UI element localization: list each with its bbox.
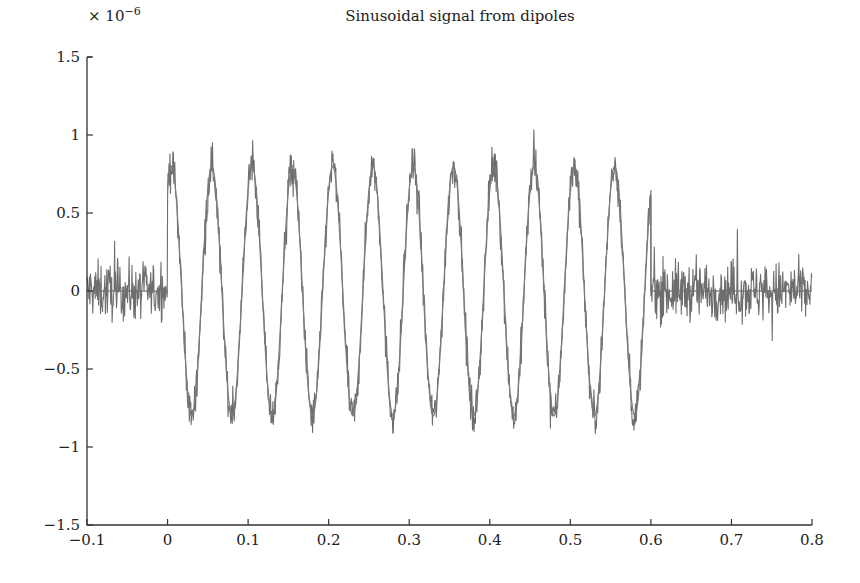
chart: Sinusoidal signal from dipoles × 10−6 −0… bbox=[0, 0, 860, 583]
x-tick-label: 0.3 bbox=[397, 531, 421, 549]
y-axis-ticks: −1.5−1−0.500.511.5 bbox=[44, 48, 93, 534]
x-tick-label: 0.5 bbox=[558, 531, 582, 549]
y-multiplier-exp: −6 bbox=[124, 5, 140, 18]
chart-title: Sinusoidal signal from dipoles bbox=[345, 7, 574, 25]
x-tick-label: 0.8 bbox=[800, 531, 824, 549]
x-tick-label: 0 bbox=[163, 531, 173, 549]
x-tick-label: 0.7 bbox=[720, 531, 744, 549]
y-tick-label: −1.5 bbox=[44, 516, 80, 534]
x-tick-label: 0.1 bbox=[236, 531, 260, 549]
x-tick-label: 0.6 bbox=[639, 531, 663, 549]
svg-text:× 10−6: × 10−6 bbox=[88, 5, 141, 25]
y-multiplier-base: × 10 bbox=[88, 7, 124, 25]
x-axis-ticks: −0.100.10.20.30.40.50.60.70.8 bbox=[69, 519, 824, 549]
y-tick-label: 1 bbox=[70, 126, 80, 144]
y-multiplier: × 10−6 bbox=[88, 5, 141, 25]
y-tick-label: 0 bbox=[70, 282, 80, 300]
plot-area bbox=[87, 130, 812, 434]
x-tick-label: 0.2 bbox=[317, 531, 341, 549]
y-tick-label: −1 bbox=[58, 438, 80, 456]
x-tick-label: 0.4 bbox=[478, 531, 502, 549]
y-tick-label: 1.5 bbox=[56, 48, 80, 66]
y-tick-label: −0.5 bbox=[44, 360, 80, 378]
y-tick-label: 0.5 bbox=[56, 204, 80, 222]
